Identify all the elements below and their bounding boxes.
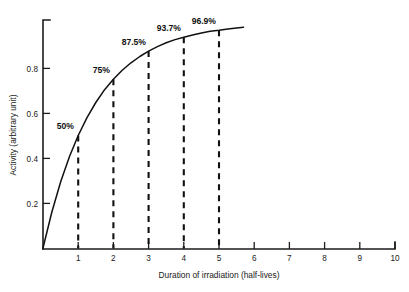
y-axis-ticks — [43, 68, 50, 203]
x-tick-label-5: 5 — [217, 254, 222, 263]
annotation-96.9-percent: 96.9% — [192, 16, 217, 26]
x-tick-label-2: 2 — [111, 254, 116, 263]
chart-figure: 0.8 0.6 0.4 0.2 1 2 3 4 5 6 7 8 9 10 — [0, 0, 409, 292]
annotation-75-percent: 75% — [93, 65, 111, 75]
chart-plot-area: 0.8 0.6 0.4 0.2 1 2 3 4 5 6 7 8 9 10 — [0, 0, 409, 292]
x-axis-title: Duration of irradiation (half-lives) — [158, 270, 279, 280]
x-tick-label-4: 4 — [182, 254, 187, 263]
annotation-50-percent: 50% — [57, 121, 75, 131]
y-axis-title: Activity (arbitrary unit) — [8, 94, 18, 175]
x-tick-label-3: 3 — [146, 254, 151, 263]
activity-curve — [43, 27, 244, 248]
y-axis-line — [43, 20, 50, 249]
y-tick-label-0.8: 0.8 — [27, 65, 39, 74]
x-tick-label-9: 9 — [358, 254, 363, 263]
y-tick-label-0.6: 0.6 — [27, 110, 39, 119]
annotation-93.7-percent: 93.7% — [157, 23, 182, 33]
x-tick-label-6: 6 — [252, 254, 257, 263]
x-tick-label-8: 8 — [322, 254, 327, 263]
x-tick-label-1: 1 — [76, 254, 81, 263]
x-tick-label-7: 7 — [287, 254, 292, 263]
x-tick-label-10: 10 — [390, 254, 400, 263]
y-tick-label-0.4: 0.4 — [27, 155, 39, 164]
x-axis-ticks — [78, 242, 395, 249]
annotation-87.5-percent: 87.5% — [122, 37, 147, 47]
marker-lines — [78, 30, 219, 248]
y-tick-label-0.2: 0.2 — [27, 200, 39, 209]
